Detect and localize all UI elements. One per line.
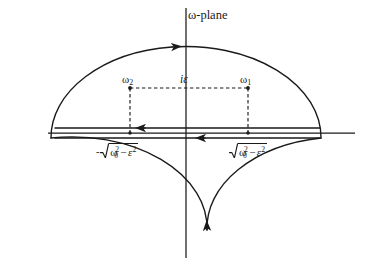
root-label-positive: ω20−ε2 [229,143,267,158]
minus-operator-negative: − [119,146,128,158]
epsilon-squared-negative: ε2 [128,146,136,158]
root-point-positive-marker [246,131,249,134]
epsilon-squared-positive: ε2 [257,146,265,158]
epsilon-exponent-negative: 2 [132,145,136,154]
omega-2-subscript: 2 [129,78,133,87]
radicand-negative: ω20−ε2 [109,143,138,158]
pole-omega-2-label: ω2 [122,74,133,87]
epsilon-exponent-positive: 2 [261,145,265,154]
root-point-negative-marker [128,131,131,134]
radical-tick-icon [229,143,238,158]
omega-zero-squared-positive: ω20 [239,146,248,159]
root-label-negative: -ω20−ε2 [96,143,138,158]
radical-tick-icon [100,143,109,158]
minus-operator-positive: − [248,146,257,158]
radical-sign-negative: ω20−ε2 [100,143,138,158]
plane-title-label: ω-plane [188,9,227,22]
omega-plane-contour-figure: ω-plane ω2 iε ω1 -ω20−ε2 ω20−ε2 [0,0,373,265]
i-epsilon-label: iε [180,74,188,86]
contour-diagram-canvas [0,0,373,265]
omega-zero-subscript-positive: 0 [243,151,247,160]
omega-zero-subscript-negative: 0 [114,151,118,160]
omega-zero-squared-negative: ω20 [110,146,119,159]
omega-1-subscript: 1 [247,78,251,87]
radicand-positive: ω20−ε2 [238,143,267,158]
radical-sign-positive: ω20−ε2 [229,143,267,158]
pole-omega-1-label: ω1 [240,74,251,87]
dashed-guide-rectangle [130,88,248,133]
